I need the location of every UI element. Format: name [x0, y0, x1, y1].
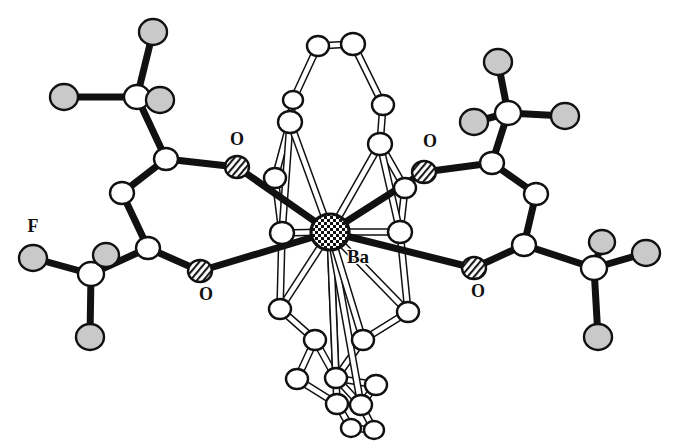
atom-c-ellipse [480, 152, 504, 174]
label-o-lower-right: O [471, 281, 485, 301]
atom-o-ellipse [412, 161, 436, 183]
atom-c-ellipse [512, 234, 536, 256]
atom-f-ellipse [146, 87, 174, 113]
atom-c-ellipse [286, 369, 308, 389]
atom-c-ellipse [307, 36, 329, 56]
atom-c-ellipse [388, 221, 412, 243]
atom-c-ellipse [264, 168, 286, 188]
atom-c-ellipse [270, 222, 294, 244]
atom-c-ellipse [350, 395, 372, 415]
atom-f-ellipse [139, 19, 167, 45]
atom-c-ellipse [304, 330, 326, 350]
atom-ba-ellipse [311, 214, 349, 250]
atom-c-ellipse [524, 183, 548, 205]
atom-c-ellipse [278, 111, 302, 133]
atom-c-ellipse [364, 421, 384, 439]
structure-canvas: OOOOFBa [0, 0, 674, 445]
atom-layer [19, 19, 660, 439]
atom-c-ellipse [352, 330, 374, 350]
atom-f-ellipse [93, 243, 119, 267]
atom-f-ellipse [589, 230, 615, 254]
atom-o-ellipse [188, 260, 212, 282]
label-o-upper-left: O [230, 129, 244, 149]
atom-c-ellipse [365, 375, 387, 395]
atom-f-ellipse [76, 324, 104, 350]
atom-o-ellipse [462, 257, 486, 279]
molecular-structure-figure: OOOOFBa [0, 0, 674, 445]
label-f-left: F [28, 216, 39, 236]
atom-f-ellipse [551, 103, 579, 129]
atom-c-ellipse [341, 33, 365, 55]
atom-c-ellipse [495, 101, 521, 125]
atom-c-ellipse [154, 148, 178, 170]
atom-c-ellipse [397, 302, 419, 322]
atom-f-ellipse [632, 240, 660, 266]
atom-c-ellipse [581, 256, 607, 280]
atom-f-ellipse [460, 109, 488, 135]
atom-c-ellipse [368, 133, 392, 155]
atom-f-ellipse [19, 245, 47, 271]
atom-c-ellipse [372, 95, 394, 115]
atom-c-ellipse [283, 91, 303, 109]
atom-f-ellipse [584, 324, 612, 350]
atom-f-ellipse [50, 84, 78, 110]
atom-o-ellipse [225, 156, 249, 178]
atom-c-ellipse [269, 299, 291, 319]
label-ba-center: Ba [347, 246, 370, 267]
label-o-lower-left: O [199, 284, 213, 304]
atom-c-ellipse [326, 394, 348, 414]
atom-c-ellipse [325, 368, 347, 388]
atom-c-ellipse [136, 237, 160, 259]
label-o-upper-right: O [423, 131, 437, 151]
atom-c-ellipse [110, 182, 134, 204]
atom-f-ellipse [484, 49, 512, 75]
atom-c-ellipse [341, 419, 361, 437]
atom-c-ellipse [394, 178, 416, 198]
